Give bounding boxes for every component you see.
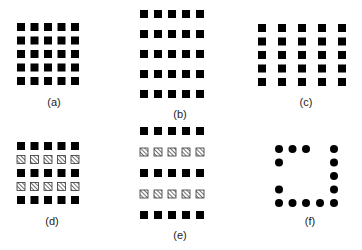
solid-square bbox=[168, 10, 176, 18]
dot bbox=[275, 186, 283, 194]
solid-square bbox=[31, 50, 39, 58]
solid-square bbox=[17, 196, 25, 204]
solid-square bbox=[58, 196, 66, 204]
solid-square bbox=[298, 24, 306, 32]
hatched-square bbox=[44, 156, 52, 164]
hatched-square bbox=[58, 183, 66, 191]
solid-square bbox=[258, 38, 266, 46]
hatched-square bbox=[140, 148, 148, 156]
solid-square bbox=[31, 196, 39, 204]
panel-label-f: (f) bbox=[305, 215, 315, 227]
solid-square bbox=[318, 65, 326, 73]
solid-square bbox=[298, 51, 306, 59]
hatched-square bbox=[58, 156, 66, 164]
solid-square bbox=[258, 65, 266, 73]
solid-square bbox=[58, 77, 66, 85]
solid-square bbox=[182, 90, 190, 98]
solid-square bbox=[71, 23, 79, 31]
solid-square bbox=[154, 10, 162, 18]
panel-a bbox=[17, 23, 79, 85]
hatched-square bbox=[196, 148, 204, 156]
solid-square bbox=[182, 169, 190, 177]
solid-square bbox=[71, 37, 79, 45]
solid-square bbox=[182, 211, 190, 219]
solid-square bbox=[196, 90, 204, 98]
solid-square bbox=[278, 51, 286, 59]
hatched-square bbox=[140, 190, 148, 198]
hatched-square bbox=[196, 190, 204, 198]
solid-square bbox=[338, 38, 346, 46]
panel-label-a: (a) bbox=[47, 96, 60, 108]
solid-square bbox=[298, 65, 306, 73]
solid-square bbox=[168, 169, 176, 177]
solid-square bbox=[44, 142, 52, 150]
solid-square bbox=[71, 196, 79, 204]
panel-label-e: (e) bbox=[173, 229, 186, 241]
hatched-square bbox=[168, 148, 176, 156]
solid-square bbox=[71, 169, 79, 177]
solid-square bbox=[196, 70, 204, 78]
solid-square bbox=[168, 127, 176, 135]
hatched-square bbox=[168, 190, 176, 198]
hatched-square bbox=[17, 156, 25, 164]
solid-square bbox=[140, 211, 148, 219]
solid-square bbox=[182, 70, 190, 78]
solid-square bbox=[168, 30, 176, 38]
solid-square bbox=[154, 30, 162, 38]
solid-square bbox=[44, 23, 52, 31]
solid-square bbox=[71, 64, 79, 72]
solid-square bbox=[17, 77, 25, 85]
solid-square bbox=[17, 169, 25, 177]
solid-square bbox=[58, 142, 66, 150]
solid-square bbox=[31, 169, 39, 177]
hatched-square bbox=[71, 183, 79, 191]
solid-square bbox=[318, 38, 326, 46]
panel-c bbox=[258, 24, 346, 86]
solid-square bbox=[140, 50, 148, 58]
hatched-square bbox=[182, 190, 190, 198]
dot bbox=[289, 145, 297, 153]
solid-square bbox=[318, 78, 326, 86]
solid-square bbox=[17, 37, 25, 45]
solid-square bbox=[196, 127, 204, 135]
solid-square bbox=[140, 70, 148, 78]
solid-square bbox=[58, 50, 66, 58]
solid-square bbox=[196, 30, 204, 38]
solid-square bbox=[44, 50, 52, 58]
solid-square bbox=[168, 211, 176, 219]
hatched-square bbox=[44, 183, 52, 191]
hatched-square bbox=[154, 148, 162, 156]
solid-square bbox=[278, 78, 286, 86]
dot bbox=[275, 199, 283, 207]
solid-square bbox=[298, 78, 306, 86]
solid-square bbox=[140, 169, 148, 177]
solid-square bbox=[17, 142, 25, 150]
solid-square bbox=[31, 142, 39, 150]
solid-square bbox=[182, 50, 190, 58]
solid-square bbox=[278, 65, 286, 73]
hatched-square bbox=[31, 156, 39, 164]
solid-square bbox=[17, 50, 25, 58]
panel-label-c: (c) bbox=[300, 96, 313, 108]
solid-square bbox=[318, 24, 326, 32]
dot bbox=[330, 186, 338, 194]
solid-square bbox=[31, 37, 39, 45]
hatched-square bbox=[154, 190, 162, 198]
solid-square bbox=[154, 127, 162, 135]
solid-square bbox=[44, 77, 52, 85]
panel-e bbox=[140, 127, 204, 219]
dot bbox=[316, 199, 324, 207]
solid-square bbox=[58, 64, 66, 72]
solid-square bbox=[17, 23, 25, 31]
solid-square bbox=[318, 51, 326, 59]
solid-square bbox=[154, 70, 162, 78]
hatched-square bbox=[71, 156, 79, 164]
dot bbox=[289, 199, 297, 207]
solid-square bbox=[338, 78, 346, 86]
dot bbox=[330, 172, 338, 180]
dot bbox=[302, 199, 310, 207]
solid-square bbox=[168, 50, 176, 58]
solid-square bbox=[154, 90, 162, 98]
solid-square bbox=[31, 64, 39, 72]
hatched-square bbox=[31, 183, 39, 191]
